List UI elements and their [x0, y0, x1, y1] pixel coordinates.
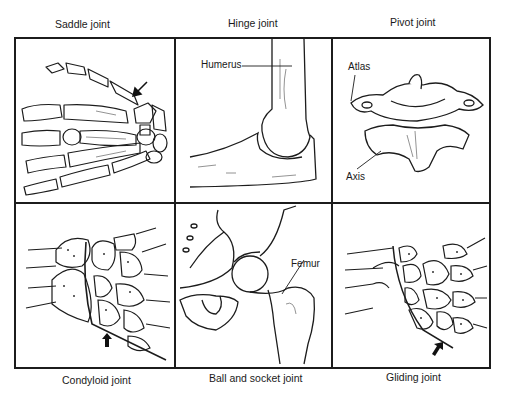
- panel-saddle-joint: [16, 39, 174, 202]
- caption-ball-and-socket-joint: Ball and socket joint: [209, 372, 302, 384]
- label-atlas: Atlas: [348, 61, 370, 72]
- caption-pivot-joint: Pivot joint: [390, 16, 436, 28]
- hand-skeleton-illustration: [16, 39, 174, 202]
- panel-gliding-joint: [333, 204, 489, 367]
- panel-ball-and-socket-joint: Femur: [176, 204, 331, 367]
- label-femur: Femur: [291, 258, 320, 269]
- elbow-illustration: [176, 39, 331, 202]
- panel-pivot-joint: Atlas Axis: [333, 39, 489, 202]
- panel-condyloid-joint: [16, 204, 174, 367]
- arrow-icon: [431, 341, 445, 357]
- label-axis: Axis: [346, 171, 365, 182]
- wrist-gliding-illustration: [333, 204, 489, 367]
- hip-illustration: [176, 204, 331, 367]
- arrow-icon: [101, 332, 113, 348]
- label-humerus: Humerus: [201, 59, 242, 70]
- caption-condyloid-joint: Condyloid joint: [62, 374, 131, 386]
- wrist-condyloid-illustration: [16, 204, 174, 367]
- caption-hinge-joint: Hinge joint: [228, 17, 278, 29]
- caption-saddle-joint: Saddle joint: [55, 18, 110, 30]
- caption-gliding-joint: Gliding joint: [386, 371, 441, 383]
- arrow-icon: [132, 81, 148, 97]
- panel-hinge-joint: Humerus: [176, 39, 331, 202]
